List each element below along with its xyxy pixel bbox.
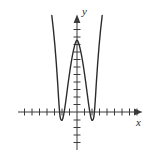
x-axis-label: x: [135, 116, 141, 128]
y-axis-label: y: [81, 5, 87, 17]
polynomial-graph: y x: [0, 0, 154, 157]
figure-container: y x: [0, 0, 154, 157]
